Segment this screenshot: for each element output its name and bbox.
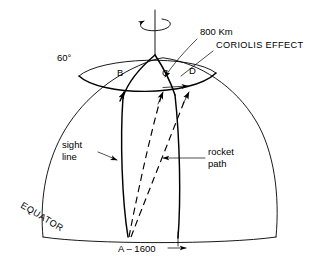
rocket-path-label-1: rocket — [208, 146, 234, 157]
diagram-canvas: 800 Km CORIOLIS EFFECT 60° B C D sight l… — [0, 0, 316, 263]
point-label-b: B — [117, 67, 123, 78]
rocket-path-dashed-1 — [129, 92, 163, 237]
launch-point-label: A – 1600 — [118, 243, 156, 254]
diagram-title: CORIOLIS EFFECT — [216, 40, 303, 50]
rocket-path-label-2: path — [208, 158, 227, 169]
coriolis-effect-diagram: 800 Km CORIOLIS EFFECT 60° B C D sight l… — [0, 0, 316, 263]
rocket-path-dashed-2 — [131, 92, 189, 237]
point-label-c: C — [162, 67, 169, 78]
sight-line-label-1: sight — [62, 139, 82, 150]
distance-label: 800 Km — [200, 26, 233, 37]
meridian-right — [155, 55, 180, 238]
latitude-label: 60° — [57, 52, 72, 63]
point-label-d: D — [189, 65, 196, 76]
equator-line — [43, 237, 276, 243]
sight-line-callout-leader — [98, 152, 117, 160]
sight-line-label-2: line — [62, 151, 77, 162]
sight-line-path — [122, 55, 155, 237]
